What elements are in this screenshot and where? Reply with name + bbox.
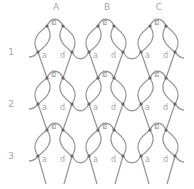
point-a-label: a [42,103,47,112]
point-c-dot [61,76,64,79]
strand-tail-right [175,52,184,58]
strand-connector [72,52,89,59]
strand-right-outer [114,78,126,104]
point-b-dot [45,76,48,79]
point-a-dot [139,50,142,53]
strand-right-outer [114,130,126,156]
point-d-label: d [60,155,65,164]
strand-down-right [167,156,175,184]
point-d-label: d [60,103,65,112]
strand-connector [72,104,89,111]
point-c-dot [164,76,167,79]
strand-right-outer [166,78,178,104]
point-d-label: d [111,155,116,164]
strand-left-outer [86,130,98,156]
strand-connector [72,156,89,163]
strand-left-inner [38,26,50,52]
point-a-label: a [93,103,98,112]
strand-right-inner [163,78,175,104]
point-c-dot [164,128,167,131]
strand-right-outer [166,130,178,156]
strand-right-inner [111,130,123,156]
column-label: A [53,2,60,12]
point-c-label: c [52,18,56,27]
strand-right-inner [60,26,72,52]
point-c-label: c [103,70,107,79]
point-b-dot [96,128,99,131]
point-c-label: c [103,18,107,27]
strand-down-right [64,156,72,184]
strand-left-inner [141,78,153,104]
strand-right-outer [63,78,75,104]
point-c-label: c [52,70,56,79]
point-a-dot [36,50,39,53]
point-b-dot [96,24,99,27]
point-d-dot [121,102,124,105]
point-a-label: a [93,155,98,164]
point-a-dot [139,154,142,157]
strand-right-outer [63,26,75,52]
point-d-dot [70,154,73,157]
row-label: 1 [8,47,14,57]
point-b-dot [45,24,48,27]
strand-tail-right [175,104,184,110]
strand-left-outer [138,130,150,156]
strand-right-inner [111,78,123,104]
strand-left-inner [141,26,153,52]
point-a-dot [87,154,90,157]
strand-left-inner [89,130,101,156]
point-a-dot [36,154,39,157]
lace-diagram: ABC123abcdabcdabcdabcdabcdabcdabcdabcdab… [0,0,194,189]
row-label: 3 [8,151,14,161]
point-c-dot [112,76,115,79]
point-c-dot [112,24,115,27]
strand-connector [123,104,141,111]
strand-left-inner [89,78,101,104]
strand-left-inner [89,26,101,52]
strand-left-outer [35,130,47,156]
point-d-dot [173,154,176,157]
point-d-label: d [111,103,116,112]
strand-left-inner [38,78,50,104]
strand-right-outer [166,26,178,52]
point-a-dot [36,102,39,105]
strand-right-outer [63,130,75,156]
point-a-dot [139,102,142,105]
point-d-label: d [111,51,116,60]
point-d-dot [121,154,124,157]
strand-left-outer [138,78,150,104]
point-c-label: c [155,122,159,131]
point-a-label: a [145,103,150,112]
point-c-dot [164,24,167,27]
strand-right-inner [163,130,175,156]
point-c-label: c [103,122,107,131]
strand-left-outer [86,26,98,52]
point-d-label: d [163,103,168,112]
column-label: B [104,2,110,12]
point-d-dot [173,50,176,53]
point-a-label: a [145,155,150,164]
strand-right-outer [114,26,126,52]
point-a-dot [87,102,90,105]
point-a-dot [87,50,90,53]
strand-right-inner [60,78,72,104]
point-c-dot [61,128,64,131]
point-d-label: d [60,51,65,60]
point-b-dot [45,128,48,131]
point-d-label: d [163,155,168,164]
point-c-label: c [52,122,56,131]
point-c-label: c [155,70,159,79]
point-d-dot [70,102,73,105]
point-b-dot [96,76,99,79]
row-label: 2 [8,99,14,109]
strand-down-right [115,156,123,184]
point-d-dot [121,50,124,53]
point-d-dot [70,50,73,53]
point-b-dot [148,76,151,79]
diagram-canvas: ABC123abcdabcdabcdabcdabcdabcdabcdabcdab… [0,0,194,189]
strand-connector [123,52,141,59]
strand-left-inner [141,130,153,156]
point-a-label: a [42,51,47,60]
strand-right-inner [60,130,72,156]
strand-left-outer [138,26,150,52]
